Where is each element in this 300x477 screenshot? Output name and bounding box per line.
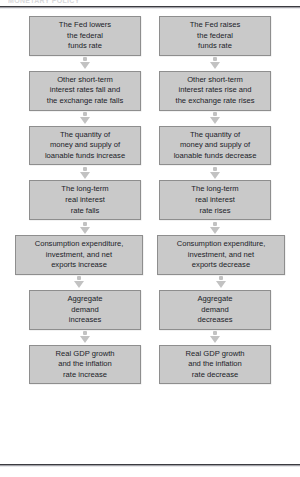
flow-box-line: Other short-term <box>176 75 255 86</box>
arrow-head <box>74 281 84 288</box>
arrow-row <box>0 330 300 345</box>
flow-box-line: interest rates fall and <box>47 85 123 96</box>
flow-box-line: and the inflation <box>56 359 115 370</box>
arrow-head <box>80 227 90 234</box>
flow-box-line: money and supply of <box>45 140 125 151</box>
flow-column-right: Other short-terminterest rates rise andt… <box>159 71 271 111</box>
flow-box-line: the exchange rate rises <box>176 96 255 107</box>
arrow-head <box>80 172 90 179</box>
flow-box-line: the federal <box>59 31 111 42</box>
arrow-row <box>0 220 300 235</box>
arrow-stem <box>77 276 81 280</box>
flow-box-line: and the inflation <box>186 359 245 370</box>
down-arrow-icon-right <box>159 220 271 235</box>
flow-row: The Fed lowersthe federalfunds rateThe F… <box>0 16 300 56</box>
flow-box-line: Consumption expenditure, <box>177 239 266 250</box>
flow-box-line: The quantity of <box>45 130 125 141</box>
flow-row: Other short-terminterest rates fall andt… <box>0 71 300 111</box>
down-arrow-icon-right <box>159 111 271 126</box>
flow-box-text: Other short-terminterest rates rise andt… <box>176 75 255 107</box>
flow-box-text: Consumption expenditure,investment, and … <box>177 239 266 271</box>
flow-box-text: Consumption expenditure,investment, and … <box>35 239 124 271</box>
flow-row: Real GDP growthand the inflationrate inc… <box>0 345 300 385</box>
flow-box-right: The quantity ofmoney and supply ofloanab… <box>159 126 271 166</box>
arrow-head <box>210 336 220 343</box>
flow-box-line: money and supply of <box>174 140 257 151</box>
arrow-stem <box>213 167 217 171</box>
arrow-head <box>210 172 220 179</box>
flow-box-right: The Fed raisesthe federalfunds rate <box>159 16 271 56</box>
flow-box-line: rate decrease <box>186 370 245 381</box>
flow-box-left: Aggregatedemandincreases <box>29 290 141 330</box>
flow-box-line: exports increase <box>35 260 124 271</box>
arrow-head <box>216 281 226 288</box>
flow-box-line: the federal <box>190 31 241 42</box>
flow-box-line: loanable funds increase <box>45 151 125 162</box>
down-arrow-icon-right <box>159 330 271 345</box>
flow-box-line: investment, and net <box>177 250 266 261</box>
running-header: MONETARY POLICY <box>8 0 80 4</box>
flow-box-text: The long-termreal interestrate rises <box>191 184 238 216</box>
flow-box-line: funds rate <box>59 41 111 52</box>
flow-row: Consumption expenditure,investment, and … <box>0 235 300 275</box>
flow-box-line: exports decrease <box>177 260 266 271</box>
arrow-head <box>80 117 90 124</box>
flow-row: The quantity ofmoney and supply ofloanab… <box>0 126 300 166</box>
flow-box-line: Other short-term <box>47 75 123 86</box>
arrow-head <box>210 117 220 124</box>
flow-box-line: real interest <box>61 195 108 206</box>
arrow-stem <box>213 331 217 335</box>
flow-box-left: Other short-terminterest rates fall andt… <box>29 71 141 111</box>
down-arrow-icon-right <box>157 275 285 290</box>
flow-box-right: Other short-terminterest rates rise andt… <box>159 71 271 111</box>
flow-box-line: demand <box>67 305 102 316</box>
flow-row: AggregatedemandincreasesAggregatedemandd… <box>0 290 300 330</box>
flow-box-line: The Fed raises <box>190 20 241 31</box>
flow-box-text: The long-termreal interestrate falls <box>61 184 108 216</box>
flow-box-text: Other short-terminterest rates fall andt… <box>47 75 123 107</box>
arrow-row <box>0 165 300 180</box>
flow-column-left: Other short-terminterest rates fall andt… <box>29 71 141 111</box>
flow-column-left: Aggregatedemandincreases <box>29 290 141 330</box>
flow-box-line: decreases <box>197 315 232 326</box>
down-arrow-icon-left <box>29 220 141 235</box>
flow-box-line: Consumption expenditure, <box>35 239 124 250</box>
flow-box-text: The Fed lowersthe federalfunds rate <box>59 20 111 52</box>
flow-box-line: real interest <box>191 195 238 206</box>
flow-column-left: The Fed lowersthe federalfunds rate <box>29 16 141 56</box>
arrow-row <box>0 56 300 71</box>
flowchart: The Fed lowersthe federalfunds rateThe F… <box>0 16 300 384</box>
flow-box-line: rate rises <box>191 206 238 217</box>
flow-box-text: Real GDP growthand the inflationrate dec… <box>186 349 245 381</box>
bottom-rule <box>0 464 300 467</box>
flow-box-text: The Fed raisesthe federalfunds rate <box>190 20 241 52</box>
flow-column-left: The quantity ofmoney and supply ofloanab… <box>29 126 141 166</box>
flow-box-line: Real GDP growth <box>56 349 115 360</box>
flow-box-left: The Fed lowersthe federalfunds rate <box>29 16 141 56</box>
down-arrow-icon-left <box>29 330 141 345</box>
arrow-head <box>80 336 90 343</box>
flow-box-line: The Fed lowers <box>59 20 111 31</box>
flow-box-line: rate increase <box>56 370 115 381</box>
flow-column-left: Real GDP growthand the inflationrate inc… <box>29 345 141 385</box>
flow-box-text: The quantity ofmoney and supply ofloanab… <box>174 130 257 162</box>
flow-column-right: Consumption expenditure,investment, and … <box>157 235 285 275</box>
down-arrow-icon-right <box>159 165 271 180</box>
arrow-stem <box>213 57 217 61</box>
arrow-row <box>0 275 300 290</box>
arrow-stem <box>213 222 217 226</box>
flow-box-line: The quantity of <box>174 130 257 141</box>
flow-box-text: The quantity ofmoney and supply ofloanab… <box>45 130 125 162</box>
flow-box-line: The long-term <box>61 184 108 195</box>
down-arrow-icon-left <box>29 111 141 126</box>
flow-box-line: Real GDP growth <box>186 349 245 360</box>
flow-box-left: Real GDP growthand the inflationrate inc… <box>29 345 141 385</box>
top-rule <box>0 6 300 9</box>
flow-column-right: Aggregatedemanddecreases <box>159 290 271 330</box>
flow-column-left: Consumption expenditure,investment, and … <box>15 235 143 275</box>
arrow-head <box>210 62 220 69</box>
down-arrow-icon-left <box>15 275 143 290</box>
flow-box-right: The long-termreal interestrate rises <box>159 180 271 220</box>
flow-box-right: Aggregatedemanddecreases <box>159 290 271 330</box>
flow-box-right: Real GDP growthand the inflationrate dec… <box>159 345 271 385</box>
